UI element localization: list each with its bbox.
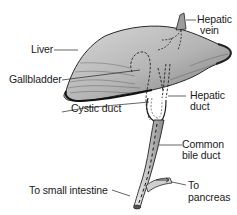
label-hepatic-vein-2: vein (200, 25, 219, 36)
label-to-pancreas-2: pancreas (188, 192, 230, 203)
liver-anatomy-diagram: Liver Gallbladder Cystic duct To small i… (0, 0, 237, 215)
label-gallbladder: Gallbladder (9, 74, 62, 85)
label-cystic-duct: Cystic duct (71, 103, 121, 114)
hepatic-vein-shape (176, 13, 186, 30)
label-to-small-intestine: To small intestine (29, 185, 108, 196)
label-hepatic-duct-2: duct (190, 101, 209, 112)
label-common-bile-duct-2: bile duct (182, 150, 220, 161)
common-bile-duct-shape (134, 120, 164, 208)
label-to-pancreas-1: To (188, 180, 199, 191)
label-liver: Liver (31, 44, 53, 55)
